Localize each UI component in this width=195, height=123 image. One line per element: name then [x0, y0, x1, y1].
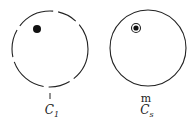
- caption-cs: Cs: [140, 104, 153, 119]
- dashed-circle-c1: [12, 11, 88, 87]
- caption-c1-sub: 1: [54, 110, 59, 119]
- solid-circle-cs: [110, 10, 186, 86]
- ringed-dot-icon: [133, 25, 138, 30]
- diagram-canvas: [0, 0, 195, 123]
- filled-dot-icon: [33, 25, 41, 33]
- caption-c1: C1: [45, 104, 59, 119]
- caption-cs-sub: s: [150, 110, 154, 119]
- caption-c1-main: C: [45, 103, 54, 117]
- caption-cs-main: C: [140, 103, 149, 117]
